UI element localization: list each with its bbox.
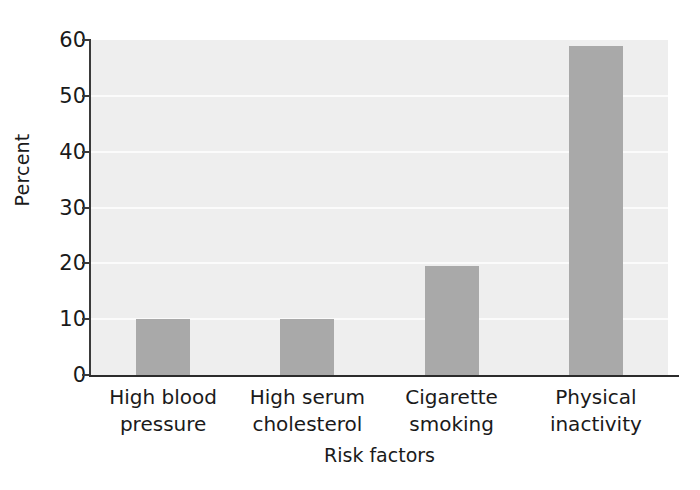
y-axis-title: Percent bbox=[0, 0, 44, 340]
bar-chart-figure: Percent 0102030405060 High bloodpressure… bbox=[0, 0, 700, 490]
x-axis-category-label: High serumcholesterol bbox=[235, 384, 379, 437]
bar bbox=[425, 266, 479, 375]
x-axis-category-label-line: Physical bbox=[524, 384, 668, 411]
x-axis-category-label-line: smoking bbox=[380, 411, 524, 438]
plot-area bbox=[91, 40, 668, 375]
bars-layer bbox=[91, 40, 668, 375]
x-axis-category-label-line: cholesterol bbox=[235, 411, 379, 438]
y-axis-tick-labels: 0102030405060 bbox=[44, 40, 86, 375]
x-axis-title: Risk factors bbox=[91, 444, 668, 466]
x-axis-category-label-line: High serum bbox=[235, 384, 379, 411]
x-axis-category-label: High bloodpressure bbox=[91, 384, 235, 437]
y-axis-title-text: Percent bbox=[11, 134, 33, 207]
x-axis-category-label: Physicalinactivity bbox=[524, 384, 668, 437]
bar bbox=[136, 319, 190, 375]
bar-slot bbox=[91, 40, 235, 375]
bar-slot bbox=[235, 40, 379, 375]
x-axis-tick-labels: High bloodpressureHigh serumcholesterolC… bbox=[91, 384, 668, 446]
x-axis-category-label-line: inactivity bbox=[524, 411, 668, 438]
x-axis-category-label-line: pressure bbox=[91, 411, 235, 438]
bar bbox=[280, 319, 334, 375]
bar-slot bbox=[380, 40, 524, 375]
bar bbox=[569, 46, 623, 375]
x-axis-category-label-line: Cigarette bbox=[380, 384, 524, 411]
bar-slot bbox=[524, 40, 668, 375]
x-axis-category-label: Cigarettesmoking bbox=[380, 384, 524, 437]
x-axis-category-label-line: High blood bbox=[91, 384, 235, 411]
x-axis-line bbox=[89, 375, 679, 377]
